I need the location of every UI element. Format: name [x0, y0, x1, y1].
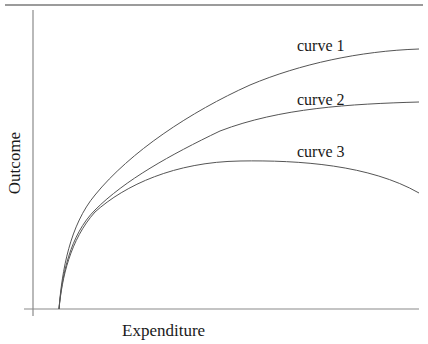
curve-3-label: curve 3: [297, 143, 345, 160]
x-axis-label: Expenditure: [122, 321, 205, 340]
diminishing-returns-diagram: curve 1 curve 2 curve 3 Expenditure Outc…: [0, 0, 428, 344]
curve-2-line: [59, 102, 419, 309]
y-axis-label: Outcome: [5, 132, 24, 194]
curve-1-line: [59, 49, 419, 309]
curve-1-label: curve 1: [297, 37, 345, 54]
curve-2-label: curve 2: [297, 91, 345, 108]
curve-3-line: [59, 161, 419, 309]
diagram-canvas: curve 1 curve 2 curve 3 Expenditure Outc…: [0, 0, 428, 344]
